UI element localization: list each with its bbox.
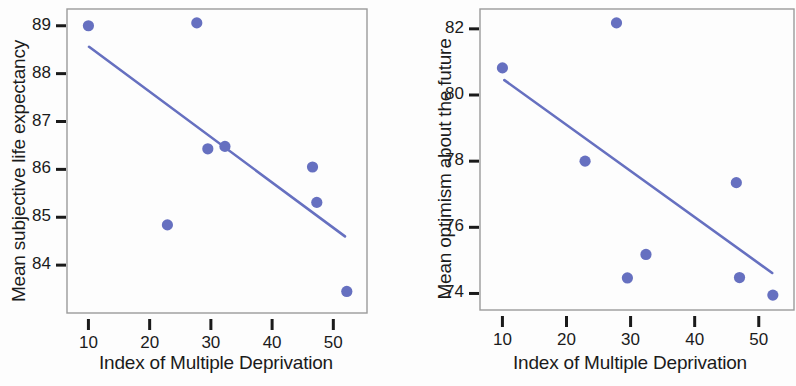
x-tick-label: 20 [125, 333, 175, 353]
x-tick-label: 40 [670, 330, 720, 350]
x-tick-label: 10 [477, 330, 527, 350]
y-tick-label: 88 [7, 63, 51, 83]
x-axis-title-right: Index of Multiple Deprivation [470, 352, 790, 374]
x-tick-label: 30 [186, 333, 236, 353]
figure-container: Mean subjective life expectancy Index of… [0, 0, 796, 386]
x-tick-label: 50 [734, 330, 784, 350]
y-tick-label: 85 [7, 206, 51, 226]
y-tick-label: 89 [7, 15, 51, 35]
y-axis-title-right: Mean optimism about the future [428, 4, 462, 334]
y-tick-label: 86 [7, 158, 51, 178]
x-tick-label: 40 [247, 333, 297, 353]
x-tick-label: 30 [606, 330, 656, 350]
x-tick-label: 50 [308, 333, 358, 353]
y-tick-label: 84 [7, 254, 51, 274]
chart-panel-life-expectancy: Mean subjective life expectancy Index of… [0, 0, 398, 386]
x-tick-label: 20 [542, 330, 592, 350]
plot-area-left [0, 0, 398, 386]
y-tick-label: 87 [7, 111, 51, 131]
x-tick-label: 10 [63, 333, 113, 353]
